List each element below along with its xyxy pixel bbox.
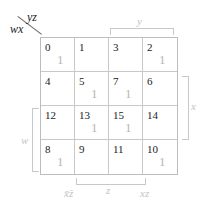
kmap-cell: 71 [109, 72, 143, 106]
cell-index: 0 [45, 41, 51, 53]
kmap-cell: 131 [75, 106, 109, 140]
cell-index: 7 [113, 75, 119, 87]
cell-value: 1 [159, 52, 166, 68]
cell-index: 12 [45, 109, 56, 121]
kmap-cell: 3 [109, 38, 143, 72]
kmap-cell: 01 [41, 38, 75, 72]
kmap-cell: 81 [41, 140, 75, 174]
cell-value: 1 [125, 120, 132, 136]
kmap-cell: 101 [143, 140, 177, 174]
cell-value: 1 [57, 52, 64, 68]
z-bracket [76, 178, 146, 185]
kmap-cell: 51 [75, 72, 109, 106]
kmap-cell: 21 [143, 38, 177, 72]
kmap-grid: 01 1 3 21 4 51 71 6 12 131 151 14 81 9 1… [40, 37, 178, 175]
y-label: y [137, 15, 142, 27]
cell-index: 6 [147, 75, 153, 87]
cell-index: 10 [147, 143, 158, 155]
cell-index: 2 [147, 41, 153, 53]
w-bracket [32, 108, 39, 172]
column-variables-label: yz [27, 10, 37, 25]
kmap-cell: 151 [109, 106, 143, 140]
w-label: w [21, 134, 28, 146]
cell-index: 1 [79, 41, 85, 53]
kmap-cell: 14 [143, 106, 177, 140]
cell-value: 1 [159, 154, 166, 170]
x-label: x [191, 100, 196, 112]
x-bracket [182, 76, 189, 140]
kmap-cell: 9 [75, 140, 109, 174]
cell-index: 14 [147, 109, 158, 121]
cell-value: 1 [125, 86, 132, 102]
z-label: z [106, 184, 110, 196]
cell-index: 15 [113, 109, 124, 121]
cell-index: 13 [79, 109, 90, 121]
kmap-cell: 6 [143, 72, 177, 106]
cell-value: 1 [57, 154, 64, 170]
cell-index: 3 [113, 41, 119, 53]
group-label-bottom-right: xz [140, 187, 149, 199]
cell-index: 5 [79, 75, 85, 87]
cell-index: 8 [45, 143, 51, 155]
kmap-cell: 1 [75, 38, 109, 72]
row-variables-label: wx [10, 22, 23, 37]
cell-value: 1 [91, 86, 98, 102]
group-label-bottom-left: x̄z̄ [64, 187, 73, 199]
kmap-cell: 12 [41, 106, 75, 140]
kmap-cell: 4 [41, 72, 75, 106]
cell-index: 9 [79, 143, 85, 155]
y-bracket [110, 28, 174, 35]
kmap-cell: 11 [109, 140, 143, 174]
cell-value: 1 [91, 120, 98, 136]
cell-index: 4 [45, 75, 51, 87]
cell-index: 11 [113, 143, 124, 155]
